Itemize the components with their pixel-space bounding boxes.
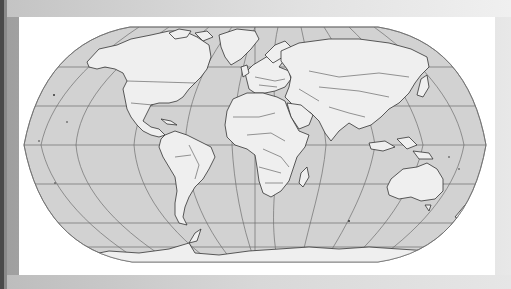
world-map [19,17,495,275]
map-frame [19,17,495,275]
background-top [7,0,511,17]
background-strip [4,0,7,289]
background-bottom [7,275,511,289]
